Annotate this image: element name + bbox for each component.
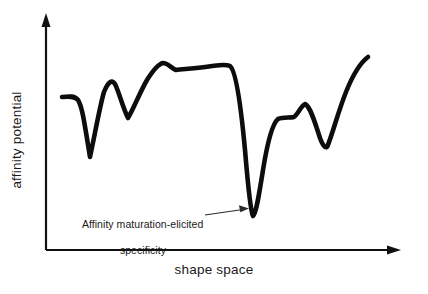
annotation-line-1: Affinity maturation-elicited <box>82 218 203 230</box>
arrow-right-icon <box>387 246 401 255</box>
annotation-line-2: specificity <box>120 244 166 256</box>
arrow-up-icon <box>42 13 51 27</box>
y-axis-label: affinity potential <box>9 78 24 202</box>
annotation-label: Affinity maturation-elicited specificity <box>62 205 212 270</box>
annotation-arrow-icon <box>239 205 249 212</box>
affinity-potential-curve <box>62 57 368 216</box>
affinity-landscape-figure: affinity potential shape space Affinity … <box>0 0 428 294</box>
